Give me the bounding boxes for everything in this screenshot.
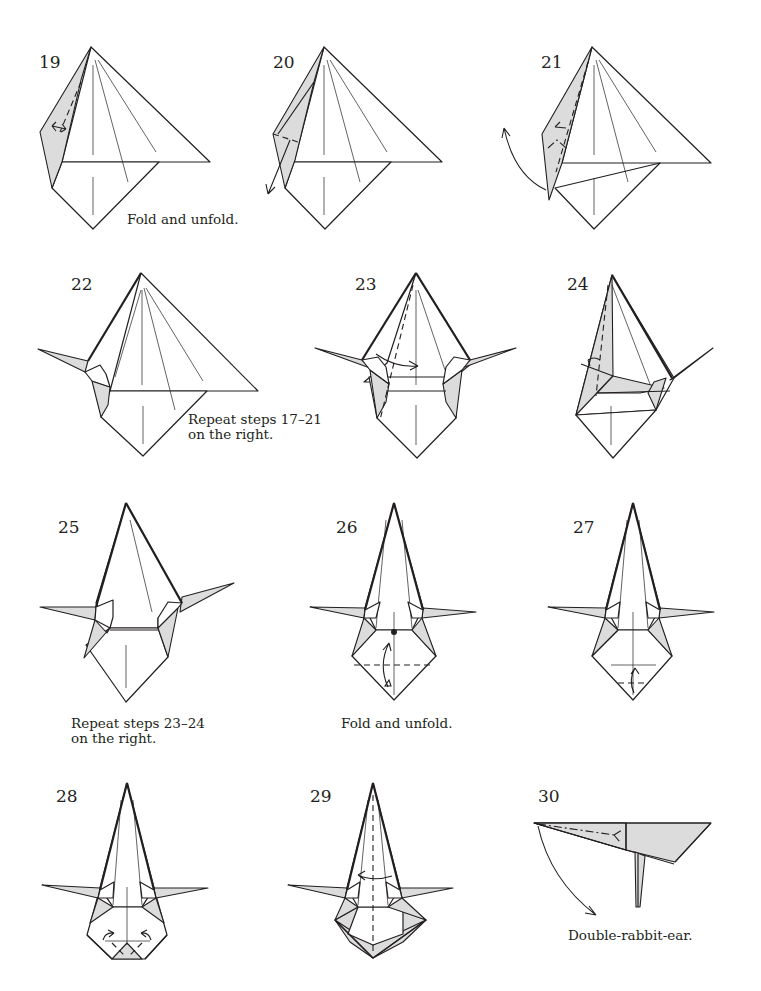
step-caption: Fold and unfold. xyxy=(127,212,238,227)
step-25-diagram xyxy=(0,490,260,750)
step-27: 27 xyxy=(540,490,761,710)
step-28: 28 xyxy=(0,770,260,991)
step-27-diagram xyxy=(540,490,761,710)
caption-line: on the right. xyxy=(71,731,205,746)
step-28-diagram xyxy=(0,770,260,991)
step-20-diagram xyxy=(250,0,500,240)
step-23-diagram xyxy=(300,260,540,470)
caption-line: Repeat steps 23–24 xyxy=(71,716,205,731)
step-30-diagram xyxy=(500,770,761,991)
step-26: 26 Fold and unfold. xyxy=(290,490,500,750)
step-29: 29 xyxy=(270,770,500,991)
step-21: 21 xyxy=(500,0,761,240)
step-24: 24 xyxy=(540,260,761,470)
step-26-diagram xyxy=(290,490,500,750)
step-caption: Repeat steps 23–24 on the right. xyxy=(71,716,205,746)
step-29-diagram xyxy=(270,770,500,991)
step-30: 30 Double-rabbit-ear. xyxy=(500,770,761,991)
step-21-diagram xyxy=(500,0,761,240)
step-20: 20 xyxy=(250,0,500,240)
step-19: 19 Fold and unfold. xyxy=(0,0,250,240)
step-22: 22 Repeat steps 17–21 on the right. xyxy=(0,260,300,470)
step-caption: Fold and unfold. xyxy=(341,716,452,731)
step-25: 25 Repeat steps 23–24 on the right. xyxy=(0,490,260,750)
step-19-diagram xyxy=(0,0,250,240)
step-23: 23 xyxy=(300,260,540,470)
step-24-diagram xyxy=(540,260,761,470)
step-caption: Double-rabbit-ear. xyxy=(568,928,693,943)
reference-dot xyxy=(391,629,397,635)
